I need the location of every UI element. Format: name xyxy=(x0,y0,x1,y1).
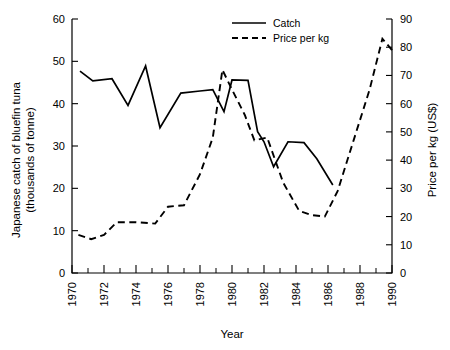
y2-axis-tick-label: 80 xyxy=(400,41,412,53)
x-axis-tick-label: 1980 xyxy=(226,282,238,306)
y2-axis-tick-label: 30 xyxy=(400,182,412,194)
y-axis-tick-label: 0 xyxy=(59,267,65,279)
y-axis-tick-label: 60 xyxy=(53,13,65,25)
y2-axis-tick-label: 50 xyxy=(400,126,412,138)
x-axis-tick-label: 1986 xyxy=(322,282,334,306)
y2-axis-tick-label: 20 xyxy=(400,211,412,223)
chart-axes xyxy=(72,19,392,273)
x-axis-tick-label: 1978 xyxy=(194,282,206,306)
plot-frame xyxy=(72,19,392,273)
y-axis-tick-label: 50 xyxy=(53,55,65,67)
series-line-catch xyxy=(80,66,333,185)
y2-axis-tick-label: 70 xyxy=(400,69,412,81)
y-axis-tick-label: 10 xyxy=(53,225,65,237)
chart-legend: CatchPrice per kg xyxy=(232,17,329,44)
x-axis-tick-label: 1990 xyxy=(386,282,398,306)
x-axis-tick-label: 1988 xyxy=(354,282,366,306)
x-axis-tick-label: 1984 xyxy=(290,282,302,306)
y2-axis-title: Price per kg (US$) xyxy=(426,103,438,198)
y2-axis-tick-label: 40 xyxy=(400,154,412,166)
y-axis-tick-label: 30 xyxy=(53,140,65,152)
series-line-price-per-kg xyxy=(78,39,392,239)
chart-figure: 0102030405060010203040506070809019701972… xyxy=(0,0,450,350)
chart-series xyxy=(78,39,392,239)
x-axis-tick-label: 1976 xyxy=(162,282,174,306)
x-axis-title: Year xyxy=(220,328,243,340)
x-axis-tick-label: 1974 xyxy=(130,282,142,306)
chart-canvas: 0102030405060010203040506070809019701972… xyxy=(0,0,450,350)
x-axis-tick-label: 1972 xyxy=(98,282,110,306)
y-axis-title-line1: Japanese catch of bluefin tuna xyxy=(10,81,22,238)
y-axis-tick-label: 40 xyxy=(53,98,65,110)
y2-axis-tick-label: 0 xyxy=(400,267,406,279)
y2-axis-tick-label: 10 xyxy=(400,239,412,251)
y2-axis-tick-label: 90 xyxy=(400,13,412,25)
x-axis-tick-label: 1982 xyxy=(258,282,270,306)
y-axis-title-line2: (thousands of tonne) xyxy=(24,107,36,213)
y2-axis-tick-label: 60 xyxy=(400,98,412,110)
legend-label-catch: Catch xyxy=(273,17,301,29)
chart-tick-labels: 0102030405060010203040506070809019701972… xyxy=(53,13,413,306)
y-axis-tick-label: 20 xyxy=(53,182,65,194)
legend-label-price-per-kg: Price per kg xyxy=(273,32,329,44)
x-axis-tick-label: 1970 xyxy=(66,282,78,306)
